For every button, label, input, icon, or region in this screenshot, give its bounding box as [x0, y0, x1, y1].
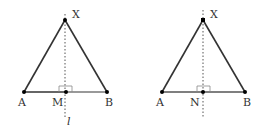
label-x: X: [210, 8, 218, 21]
point-b: [105, 90, 109, 94]
point-a: [160, 90, 164, 94]
point-a: [22, 90, 26, 94]
point-x: [201, 18, 205, 22]
label-line-l: l: [67, 115, 71, 128]
side-xb: [203, 20, 245, 92]
label-b: B: [105, 96, 113, 109]
label-n: N: [190, 96, 200, 109]
point-m: [64, 90, 68, 94]
right-figure: X A N B: [155, 8, 251, 118]
label-m: M: [52, 96, 63, 109]
diagram-canvas: X A M B l X A N B: [0, 0, 264, 129]
point-b: [243, 90, 247, 94]
left-figure: X A M B l: [17, 8, 113, 128]
point-x: [63, 18, 67, 22]
side-xa: [162, 20, 203, 92]
side-xa: [24, 20, 65, 92]
label-a: A: [17, 96, 27, 109]
label-x: X: [72, 8, 80, 21]
side-xb: [65, 20, 107, 92]
label-b: B: [243, 96, 251, 109]
point-n: [201, 90, 205, 94]
label-a: A: [155, 96, 165, 109]
